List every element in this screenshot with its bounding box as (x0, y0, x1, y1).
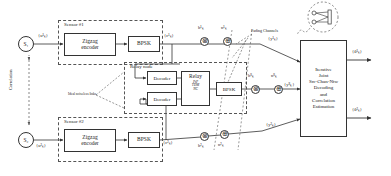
diagram-canvas: Sensor #1 S₁ {u¹ₖ} Zigzag encoder BPSK {… (0, 0, 391, 176)
sensor-2-encoder-label-line2: encoder (81, 141, 98, 147)
relay-processing-box[interactable]: Relay PtP TDM NC (181, 71, 210, 106)
sensor-2-output-label: {c²ₖ} (163, 140, 173, 145)
ideal-noiseless-links-label: Ideal noiseless links (68, 92, 96, 96)
sensor-2-bpsk-label: BPSK (137, 137, 151, 143)
fading-channels-label: Fading Channels (251, 28, 278, 33)
output-2-label: {û²ₖ} (352, 107, 362, 112)
branch1-gain-label: h¹ₖ (198, 25, 204, 30)
branch1-output-label: {y¹ₖ} (268, 36, 278, 41)
relay-decoder-top-label: Decoder (154, 76, 171, 81)
source-node-s1-label: S₁ (24, 41, 29, 47)
sensor-2-bpsk[interactable]: BPSK (128, 132, 160, 148)
sensor-1-bpsk[interactable]: BPSK (128, 36, 160, 52)
sensor-2-input-label: {u²ₖ} (36, 143, 46, 148)
add-glyph: ⊕ (221, 131, 228, 138)
relay-branch-noise-label: nᴿₖ (271, 73, 277, 78)
relay-node-group-label: Relay node (130, 64, 153, 69)
branch2-gain-label: h²ₖ (198, 143, 204, 148)
sensor-1-encoder-label-line2: encoder (81, 45, 98, 51)
branch1-add-node[interactable]: ⊕ (223, 37, 232, 46)
output-1-label: {û¹ₖ} (352, 49, 362, 54)
multiply-glyph: ⊗ (201, 38, 208, 45)
branch2-output-label: {y²ₖ} (266, 122, 276, 127)
branch2-multiply-node[interactable]: ⊗ (200, 132, 209, 141)
sensor-1-output-label: {c¹ₖ} (164, 33, 174, 38)
relay-branch-output-label: {yᴿₖ} (284, 82, 294, 87)
relay-bpsk[interactable]: BPSK (216, 82, 242, 96)
relay-branch-multiply-node[interactable]: ⊗ (251, 85, 260, 94)
source-node-s1[interactable]: S₁ (18, 36, 34, 52)
relay-decoder-bottom[interactable]: Decoder (147, 92, 177, 106)
relay-decoder-top[interactable]: Decoder (147, 71, 177, 85)
source-node-s2-label: S₂ (24, 137, 29, 143)
relay-bpsk-label: BPSK (223, 87, 236, 92)
sensor-1-zigzag-encoder[interactable]: Zigzag encoder (64, 33, 116, 56)
add-glyph: ⊕ (275, 86, 282, 93)
sensor-1-bpsk-label: BPSK (137, 41, 151, 47)
relay-decoder-bottom-label: Decoder (154, 97, 171, 102)
branch1-noise-label: n¹ₖ (221, 25, 227, 30)
iterative-joint-decoder[interactable]: Iterative Joint Src-Chan-Ntw Decoding an… (300, 40, 347, 137)
sensor-1-input-label: {u¹ₖ} (38, 33, 48, 38)
branch1-multiply-node[interactable]: ⊗ (200, 37, 209, 46)
sensor-2-zigzag-encoder[interactable]: Zigzag encoder (64, 129, 116, 152)
source-node-s2[interactable]: S₂ (18, 132, 34, 148)
branch2-add-node[interactable]: ⊕ (220, 130, 229, 139)
multiply-glyph: ⊗ (201, 133, 208, 140)
correlation-label: Correlation (8, 70, 13, 91)
branch2-noise-label: n²ₖ (218, 142, 224, 147)
sensor-2-group-label: Sensor #2 (64, 119, 84, 124)
relay-branch-add-node[interactable]: ⊕ (274, 85, 283, 94)
sensor-1-group-label: Sensor #1 (64, 22, 84, 27)
multiply-glyph: ⊗ (252, 86, 259, 93)
relay-branch-gain-label: hᴿₖ (248, 73, 254, 78)
relay-processing-label: Relay (189, 74, 202, 80)
relay-mode-nc: NC (193, 88, 198, 92)
joint-decoder-line-7: Estimation (313, 104, 335, 110)
add-glyph: ⊕ (224, 38, 231, 45)
